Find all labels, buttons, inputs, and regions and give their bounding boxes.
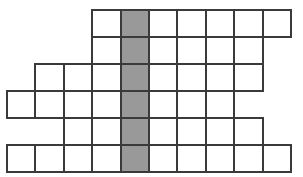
grid-cell	[233, 36, 263, 65]
grid-cell	[176, 90, 206, 119]
grid-cell	[34, 63, 64, 92]
grid-figure	[0, 0, 303, 177]
grid-cell	[205, 117, 235, 146]
grid-cell	[205, 9, 235, 38]
grid-cell	[262, 9, 292, 38]
grid-cell	[34, 90, 64, 119]
grid-cell	[91, 144, 121, 173]
grid-cell	[91, 9, 121, 38]
grid-cell	[176, 63, 206, 92]
grid-cell	[233, 144, 263, 173]
grid-cell	[6, 90, 36, 119]
grid-cell	[91, 36, 121, 65]
grid-cell	[63, 90, 93, 119]
grid-cell	[91, 117, 121, 146]
grid-cell	[205, 144, 235, 173]
grid-cell	[6, 144, 36, 173]
grid-cell-shaded	[120, 90, 150, 119]
grid-cell	[148, 9, 178, 38]
grid-cell	[91, 63, 121, 92]
grid-cell	[63, 144, 93, 173]
grid-cell	[91, 90, 121, 119]
grid-cell	[205, 36, 235, 65]
grid-cell	[176, 36, 206, 65]
grid-cell	[233, 117, 263, 146]
grid-cell	[205, 63, 235, 92]
grid-cell-shaded	[120, 144, 150, 173]
grid-cell	[148, 144, 178, 173]
grid-cell	[148, 90, 178, 119]
grid-cell-shaded	[120, 9, 150, 38]
grid-cell-shaded	[120, 117, 150, 146]
grid-cell	[148, 36, 178, 65]
grid-cell-shaded	[120, 36, 150, 65]
grid-cell	[63, 117, 93, 146]
grid-cell	[233, 63, 263, 92]
grid-cell	[63, 63, 93, 92]
grid-cell	[34, 144, 64, 173]
grid-cell	[176, 117, 206, 146]
grid-cell	[176, 144, 206, 173]
grid-cell	[148, 117, 178, 146]
grid-cell	[148, 63, 178, 92]
grid-cell	[262, 144, 292, 173]
grid-cell	[233, 9, 263, 38]
grid-cell	[176, 9, 206, 38]
grid-cell-shaded	[120, 63, 150, 92]
grid-cell	[205, 90, 235, 119]
